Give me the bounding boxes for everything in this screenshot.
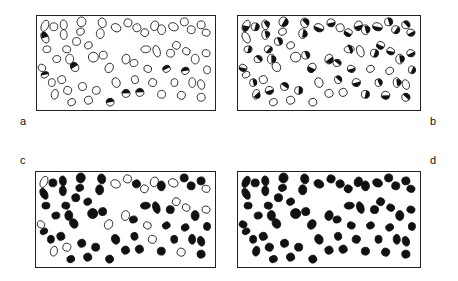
panel-label-d: d [430, 155, 436, 166]
panel-d-cells [238, 172, 420, 267]
panel-d [237, 171, 421, 268]
panel-label-c: c [20, 155, 26, 166]
panel-a-cells [37, 16, 215, 110]
panel-a [36, 15, 216, 111]
panel-label-b: b [430, 116, 436, 127]
panel-c [35, 171, 216, 268]
panel-c-cells [36, 172, 215, 267]
panel-b-cells [238, 16, 420, 110]
panel-b [237, 15, 421, 111]
panel-label-a: a [20, 116, 26, 127]
